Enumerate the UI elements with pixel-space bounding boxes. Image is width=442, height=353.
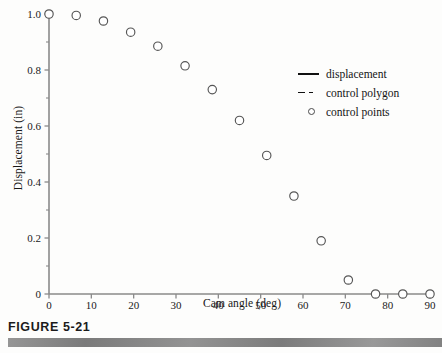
data-point-control-point [154, 42, 162, 50]
data-point-control-point [235, 116, 243, 124]
plot-area: Displacement (in) Cam angle (deg) 010203… [0, 0, 442, 312]
x-tick-label: 90 [425, 299, 436, 311]
x-tick-label: 80 [382, 299, 393, 311]
x-tick-label: 20 [128, 299, 139, 311]
data-point-control-point [263, 151, 271, 159]
legend-label-displacement: displacement [326, 68, 387, 80]
x-tick-label: 60 [298, 299, 309, 311]
data-point-control-point [181, 62, 189, 70]
data-point-control-point [344, 276, 352, 284]
x-tick-label: 70 [340, 299, 351, 311]
y-axis-title: Displacement (in) [12, 68, 24, 228]
figure-caption: FIGURE 5-21 [8, 320, 90, 334]
legend-label-control-polygon: control polygon [326, 87, 399, 99]
data-point-control-point [72, 11, 80, 19]
figure-caption-block: FIGURE 5-21 [0, 320, 442, 353]
y-tick-label: 0.8 [8, 64, 41, 76]
data-point-control-point [45, 10, 53, 18]
legend-item-displacement: displacement [296, 64, 436, 83]
y-tick-label: 1.0 [8, 8, 41, 20]
legend-item-control-points: control points [296, 102, 436, 121]
x-tick-label: 0 [46, 299, 52, 311]
x-tick-label: 50 [255, 299, 266, 311]
y-tick-label: 0.4 [8, 176, 41, 188]
data-point-control-point [99, 17, 107, 25]
caption-rule-bar [8, 338, 442, 347]
data-point-control-point [208, 85, 216, 93]
y-tick-label: 0.6 [8, 120, 41, 132]
data-point-control-point [126, 28, 134, 36]
y-tick-label: 0 [8, 288, 41, 300]
data-point-control-point [290, 192, 298, 200]
y-tick-label: 0.2 [8, 232, 41, 244]
plot-svg [0, 0, 442, 312]
chart-legend: displacement control polygon control poi… [296, 64, 436, 121]
x-tick-label: 10 [86, 299, 97, 311]
x-tick-label: 30 [171, 299, 182, 311]
figure-container: Displacement (in) Cam angle (deg) 010203… [0, 0, 442, 353]
legend-item-control-polygon: control polygon [296, 83, 436, 102]
solid-line-icon [296, 67, 326, 81]
dashed-line-icon [296, 86, 326, 100]
legend-label-control-points: control points [326, 106, 390, 118]
x-tick-label: 40 [213, 299, 224, 311]
open-circle-icon [296, 105, 326, 119]
data-point-control-point [317, 237, 325, 245]
